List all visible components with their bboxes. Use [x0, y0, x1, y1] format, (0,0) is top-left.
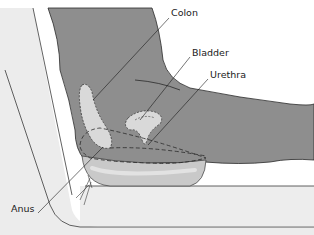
label-anus: Anus [11, 204, 35, 214]
label-bladder: Bladder [192, 48, 229, 58]
chair-seat [80, 186, 314, 226]
label-colon: Colon [171, 8, 198, 18]
label-urethra: Urethra [210, 70, 246, 80]
diagram-illustration [0, 0, 314, 235]
pelvic-anatomy-diagram: Colon Bladder Urethra Anus [0, 0, 314, 235]
